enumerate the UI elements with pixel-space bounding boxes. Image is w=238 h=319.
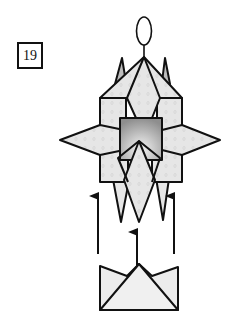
main-model xyxy=(60,17,220,222)
top-diamond xyxy=(127,57,160,118)
boat-unit xyxy=(100,264,178,310)
head-oval xyxy=(137,17,152,45)
left-wing xyxy=(60,125,124,155)
origami-diagram xyxy=(0,0,238,319)
right-wing xyxy=(162,125,220,155)
